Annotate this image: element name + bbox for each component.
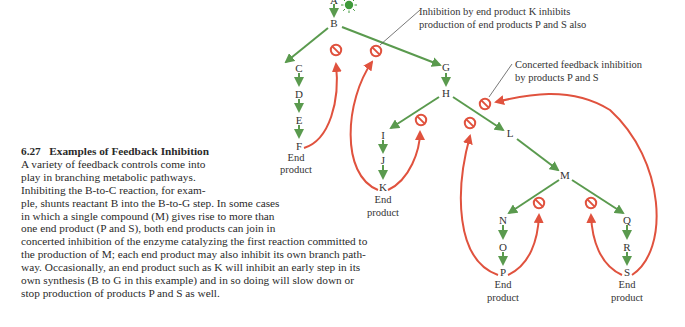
annotation-concerted-line1: Concerted feedback inhibition	[515, 59, 643, 70]
no-entry-icon	[416, 115, 426, 125]
caption-line: stop production of products P and S as w…	[21, 287, 451, 300]
node-c: C	[295, 62, 302, 74]
node-q: Q	[623, 214, 631, 226]
annotation-k-line1: Inhibition by end product K inhibits	[419, 6, 570, 17]
node-g: G	[442, 61, 450, 73]
annotation-k-inhibition: Inhibition by end product K inhibits pro…	[419, 6, 586, 30]
no-entry-icon	[371, 46, 381, 56]
node-s: S	[624, 266, 630, 278]
caption-line: the production of M; each end product ma…	[21, 248, 451, 261]
caption-line: A variety of feedback controls come into	[21, 158, 451, 171]
caption-line: Inhibiting the B-to-C reaction, for exam…	[21, 184, 451, 197]
caption-line: play in branching metabolic pathways.	[21, 171, 451, 184]
annotation-k-line2: production of end products P and S also	[419, 19, 586, 30]
node-l: L	[507, 127, 514, 139]
no-entry-icon	[331, 45, 341, 55]
no-entry-icon	[534, 198, 544, 208]
node-i: I	[381, 129, 385, 141]
annotation-concerted-line2: by products P and S	[515, 72, 599, 83]
no-entry-icon	[465, 118, 475, 128]
node-n: N	[499, 214, 507, 226]
end-product-p-line1: End	[495, 279, 513, 290]
caption-line: way. Occasionally, an end product such a…	[21, 261, 451, 274]
node-m: M	[560, 169, 570, 181]
node-r: R	[623, 241, 631, 253]
caption-line: own synthesis (B to G in this example) a…	[21, 274, 451, 287]
figure-number: 6.27	[21, 145, 41, 157]
no-entry-icon	[480, 99, 490, 109]
caption-line: in which a single compound (M) gives ris…	[21, 210, 451, 223]
sunburst-icon	[341, 0, 357, 13]
node-p: P	[500, 266, 506, 278]
caption-line: ple, shunts reactant B into the B-to-G s…	[21, 197, 451, 210]
end-product-p-line2: product	[487, 292, 519, 303]
node-e: E	[296, 114, 303, 126]
no-entry-icon	[586, 198, 596, 208]
caption-heading: 6.27 Examples of Feedback Inhibition	[21, 145, 451, 158]
node-b: B	[330, 17, 337, 29]
node-o: O	[499, 241, 507, 253]
figure-title: Examples of Feedback Inhibition	[49, 145, 209, 157]
end-product-s-line1: End	[619, 279, 637, 290]
node-h: H	[442, 87, 450, 99]
node-d: D	[295, 88, 303, 100]
caption-line: one end product (P and S), both end prod…	[21, 222, 451, 235]
end-product-s-line2: product	[611, 292, 643, 303]
caption-line: concerted inhibition of the enzyme catal…	[21, 235, 451, 248]
figure-caption: 6.27 Examples of Feedback Inhibition A v…	[21, 145, 451, 300]
node-a: A	[330, 0, 338, 6]
annotation-concerted: Concerted feedback inhibition by product…	[515, 59, 643, 83]
